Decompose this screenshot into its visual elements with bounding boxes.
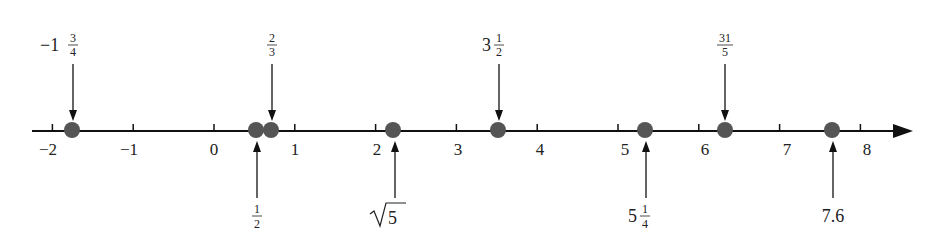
arrow-down-icon — [495, 110, 503, 121]
pointer-arrows-below — [253, 141, 837, 198]
svg-text:1: 1 — [254, 202, 260, 216]
point-label-one-half: 1 2 — [252, 202, 262, 231]
svg-text:2: 2 — [254, 217, 260, 231]
svg-text:2: 2 — [496, 45, 502, 59]
svg-text:5: 5 — [628, 206, 637, 226]
tick-label: −1 — [120, 140, 138, 159]
tick-label: 7 — [783, 140, 792, 159]
svg-text:2: 2 — [269, 31, 275, 45]
point-label-thirty-one-fifths: 31 5 — [717, 31, 733, 59]
point-label-neg-one-three-quarters: −1 3 4 — [40, 31, 78, 59]
point-dot — [490, 122, 506, 138]
number-line-figure: −2 −1 0 1 2 3 4 5 6 7 8 −1 3 — [0, 0, 937, 240]
point-label-seven-point-six: 7.6 — [822, 206, 845, 226]
svg-text:4: 4 — [642, 217, 648, 231]
svg-text:3: 3 — [482, 35, 491, 55]
point-label-five-and-quarter: 5 1 4 — [628, 202, 650, 231]
point-dot — [717, 122, 733, 138]
number-line-axis — [32, 124, 913, 138]
point-label-two-thirds: 2 3 — [267, 31, 277, 59]
point-label-sqrt-five: 5 — [370, 203, 406, 228]
point-dot — [248, 122, 264, 138]
point-dot — [385, 122, 401, 138]
svg-text:1: 1 — [496, 31, 502, 45]
tick-label: 5 — [621, 140, 630, 159]
arrow-down-icon — [69, 110, 77, 121]
point-dot — [824, 122, 840, 138]
svg-text:3: 3 — [269, 45, 275, 59]
arrow-up-icon — [829, 141, 837, 152]
tick-label: 1 — [291, 140, 300, 159]
svg-text:1: 1 — [642, 202, 648, 216]
point-dot — [64, 122, 80, 138]
arrow-up-icon — [642, 141, 650, 152]
pointer-arrows-above — [69, 64, 729, 121]
axis-arrow-icon — [893, 124, 913, 138]
tick-label: 0 — [210, 140, 219, 159]
point-label-three-and-half: 3 1 2 — [482, 31, 504, 59]
point-dot — [637, 122, 653, 138]
tick-label: −2 — [39, 140, 57, 159]
tick-label: 4 — [536, 140, 545, 159]
tick-label: 3 — [454, 140, 463, 159]
svg-text:5: 5 — [388, 208, 397, 228]
arrow-down-icon — [721, 110, 729, 121]
svg-text:7.6: 7.6 — [822, 206, 845, 226]
arrow-up-icon — [391, 141, 399, 152]
svg-text:4: 4 — [70, 45, 76, 59]
arrow-up-icon — [253, 141, 261, 152]
arrow-down-icon — [268, 110, 276, 121]
tick-label: 6 — [701, 140, 710, 159]
svg-text:31: 31 — [719, 31, 731, 45]
svg-text:−1: −1 — [40, 35, 59, 55]
svg-text:3: 3 — [70, 31, 76, 45]
tick-label: 2 — [373, 140, 382, 159]
tick-label: 8 — [863, 140, 872, 159]
point-dot — [263, 122, 279, 138]
axis-tick-labels: −2 −1 0 1 2 3 4 5 6 7 8 — [39, 140, 871, 159]
svg-text:5: 5 — [722, 45, 728, 59]
